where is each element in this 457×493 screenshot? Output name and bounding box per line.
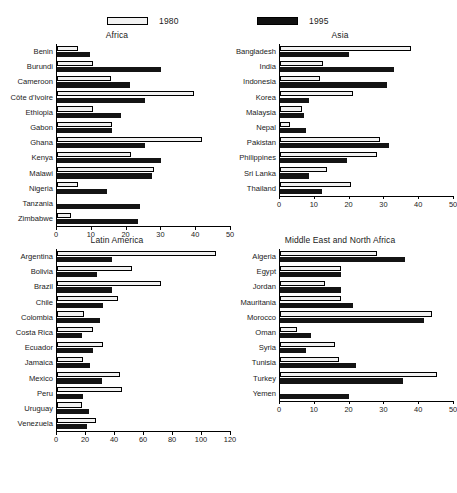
plot-area: AlgeriaEgyptJordanMauritaniaMoroccoOmanS… <box>227 249 453 415</box>
bar-1980 <box>57 342 103 347</box>
bar-1995 <box>280 287 341 292</box>
bar-1995 <box>57 409 89 414</box>
category-label: Tunisia <box>227 355 279 370</box>
bar-1995 <box>57 394 83 399</box>
category-label: Cameroon <box>4 74 56 89</box>
bar-1995 <box>57 158 161 163</box>
legend-swatch-1995 <box>257 17 298 25</box>
bar-1995 <box>280 394 349 399</box>
bar-1995 <box>57 272 97 277</box>
bar-row: Peru <box>4 386 230 401</box>
bar-group <box>56 340 230 355</box>
bar-1995 <box>280 67 394 72</box>
bar-group <box>279 120 453 135</box>
legend-item-1995: 1995 <box>257 16 329 26</box>
bar-1980 <box>57 387 122 392</box>
bar-1980 <box>57 61 93 66</box>
bar-1980 <box>280 281 325 286</box>
bar-1980 <box>57 167 154 172</box>
bar-row: Ghana <box>4 135 230 150</box>
bar-1995 <box>280 158 347 163</box>
bar-row: Sri Lanka <box>227 166 453 181</box>
category-label: Pakistan <box>227 135 279 150</box>
axis-tick <box>114 431 115 435</box>
bar-group <box>56 74 230 89</box>
bar-group <box>279 371 453 386</box>
axis-tick-label: 20 <box>344 200 352 209</box>
axis-tick <box>126 226 127 230</box>
bar-group <box>279 264 453 279</box>
bar-1980 <box>280 76 320 81</box>
bar-1995 <box>280 113 304 118</box>
category-label: Ethiopia <box>4 105 56 120</box>
bar-row: Thailand <box>227 181 453 196</box>
bar-1980 <box>280 91 353 96</box>
bar-1980 <box>57 152 131 157</box>
category-label: Bangladesh <box>227 44 279 59</box>
axis-tick <box>383 196 384 200</box>
bar-row: Morocco <box>227 310 453 325</box>
bar-row: Tanzania <box>4 196 230 211</box>
bar-group <box>279 150 453 165</box>
bar-1980 <box>57 266 132 271</box>
bar-1995 <box>57 52 90 57</box>
bar-row: Nepal <box>227 120 453 135</box>
bar-group <box>56 249 230 264</box>
category-label: Thailand <box>227 181 279 196</box>
bar-1995 <box>280 318 424 323</box>
bar-1980 <box>57 46 78 51</box>
bar-1995 <box>57 143 145 148</box>
category-label: Mauritania <box>227 295 279 310</box>
bar-1995 <box>57 348 93 353</box>
bar-group <box>56 401 230 416</box>
bar-1980 <box>280 311 432 316</box>
bar-group <box>279 90 453 105</box>
axis-line <box>279 196 453 197</box>
bar-row: Zimbabwe <box>4 211 230 226</box>
bar-1980 <box>280 61 323 66</box>
axis-tick-label: 40 <box>414 405 422 414</box>
bar-group <box>279 325 453 340</box>
bar-1980 <box>280 251 377 256</box>
bar-1980 <box>57 311 84 316</box>
bar-1980 <box>57 402 82 407</box>
bar-1995 <box>280 257 405 262</box>
axis-tick-label: 0 <box>54 435 58 444</box>
category-label: Turkey <box>227 371 279 386</box>
axis-tick <box>201 431 202 435</box>
bar-1980 <box>57 213 71 218</box>
axis-tick-label: 100 <box>195 435 207 444</box>
bar-1995 <box>280 378 403 383</box>
bar-group <box>279 59 453 74</box>
bar-row: Ecuador <box>4 340 230 355</box>
bar-row: Philippines <box>227 150 453 165</box>
bar-rows: ArgentinaBoliviaBrazilChileColombiaCosta… <box>4 249 230 431</box>
bar-1995 <box>57 67 161 72</box>
bar-row: Mexico <box>4 371 230 386</box>
bar-1995 <box>57 333 82 338</box>
bar-1995 <box>57 287 112 292</box>
bar-row: Mauritania <box>227 295 453 310</box>
axis-tick <box>453 401 454 405</box>
bar-1980 <box>280 106 302 111</box>
bar-row: Malawi <box>4 166 230 181</box>
bar-group <box>279 105 453 120</box>
axis-tick <box>349 401 350 405</box>
bar-group <box>56 310 230 325</box>
axis-tick <box>195 226 196 230</box>
category-label: India <box>227 59 279 74</box>
bar-row: Brazil <box>4 279 230 294</box>
bar-row: Egypt <box>227 264 453 279</box>
category-label: Jordan <box>227 279 279 294</box>
axis-tick <box>279 196 280 200</box>
category-label: Oman <box>227 325 279 340</box>
bar-1980 <box>57 281 161 286</box>
axis-tick <box>172 431 173 435</box>
bar-1980 <box>57 182 78 187</box>
axis-tick-label: 0 <box>277 200 281 209</box>
bar-group <box>56 120 230 135</box>
bar-1995 <box>57 219 138 224</box>
bar-group <box>56 90 230 105</box>
category-label: Zimbabwe <box>4 211 56 226</box>
bar-row: Bangladesh <box>227 44 453 59</box>
